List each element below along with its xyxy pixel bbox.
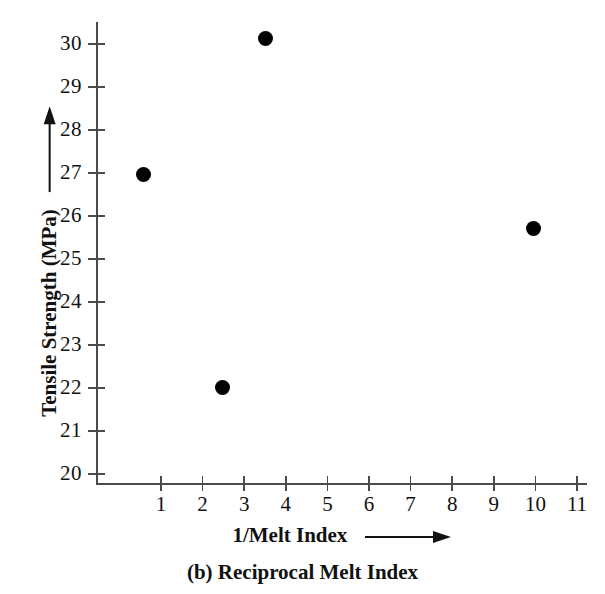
x-tick-10 — [535, 476, 537, 491]
x-tick-label-4: 4 — [266, 494, 306, 515]
y-tick-21 — [88, 430, 105, 432]
y-tick-20 — [88, 473, 105, 475]
data-point — [526, 221, 541, 236]
y-tick-label-30: 30 — [38, 33, 82, 54]
x-tick-7 — [410, 476, 412, 491]
y-axis-line — [96, 22, 98, 484]
y-tick-24 — [88, 301, 105, 303]
y-tick-label-20: 20 — [38, 463, 82, 484]
y-tick-29 — [88, 86, 105, 88]
y-tick-30 — [88, 43, 105, 45]
x-tick-label-8: 8 — [432, 494, 472, 515]
x-tick-label-9: 9 — [474, 494, 514, 515]
x-tick-label-3: 3 — [224, 494, 264, 515]
x-tick-8 — [451, 476, 453, 491]
x-tick-label-5: 5 — [307, 494, 347, 515]
y-tick-26 — [88, 215, 105, 217]
up-arrow-icon — [37, 106, 62, 192]
right-arrow-icon — [365, 525, 451, 550]
y-axis-title-text: Tensile Strength (MPa) — [37, 209, 61, 417]
x-tick-label-7: 7 — [391, 494, 431, 515]
x-tick-3 — [243, 476, 245, 491]
y-tick-22 — [88, 387, 105, 389]
scatter-plot-area: 2021222324252627282930 1234567891011 — [0, 0, 605, 594]
x-tick-label-11: 11 — [557, 494, 597, 515]
x-tick-label-1: 1 — [141, 494, 181, 515]
figure-root: 2021222324252627282930 1234567891011 Ten… — [0, 0, 605, 594]
x-tick-label-10: 10 — [515, 494, 555, 515]
x-axis-title: 1/Melt Index — [96, 523, 587, 550]
data-point — [258, 31, 273, 46]
x-tick-5 — [327, 476, 329, 491]
y-tick-27 — [88, 172, 105, 174]
x-tick-label-2: 2 — [183, 494, 223, 515]
data-point — [136, 167, 151, 182]
y-tick-25 — [88, 258, 105, 260]
x-tick-11 — [576, 476, 578, 491]
y-tick-23 — [88, 344, 105, 346]
y-axis-title: Tensile Strength (MPa) — [36, 96, 63, 426]
x-tick-label-6: 6 — [349, 494, 389, 515]
x-tick-4 — [285, 476, 287, 491]
x-axis-title-text: 1/Melt Index — [232, 523, 347, 547]
x-tick-1 — [160, 476, 162, 491]
x-tick-2 — [202, 476, 204, 491]
y-tick-label-29: 29 — [38, 76, 82, 97]
y-tick-28 — [88, 129, 105, 131]
x-axis-line — [96, 483, 587, 485]
figure-caption: (b) Reciprocal Melt Index — [0, 560, 605, 585]
data-point — [215, 380, 230, 395]
x-tick-6 — [368, 476, 370, 491]
x-tick-9 — [493, 476, 495, 491]
